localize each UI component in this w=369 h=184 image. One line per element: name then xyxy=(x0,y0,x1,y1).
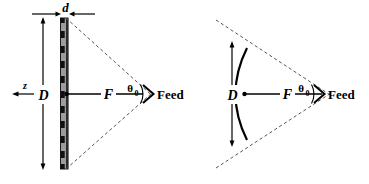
diameter-top-arrowhead xyxy=(230,41,235,48)
half-angle-theta0-left: θ 0 xyxy=(127,82,143,104)
diameter-top-arrowhead xyxy=(41,17,46,24)
half-angle-label-theta: θ xyxy=(127,82,133,94)
thickness-right-arrowhead xyxy=(69,12,75,17)
focal-vertex-dot xyxy=(242,92,246,96)
feed-label: Feed xyxy=(328,87,355,102)
figure-canvas: d xyxy=(0,0,369,184)
feed-label: Feed xyxy=(157,87,184,102)
ray-lower xyxy=(66,93,152,169)
axis-arrow-z: z xyxy=(12,80,34,96)
ray-upper xyxy=(216,20,331,96)
focal-length-dimension-F-right: F xyxy=(242,87,322,102)
focal-length-label-F: F xyxy=(282,87,293,102)
diameter-dimension-D-left: D xyxy=(35,17,52,170)
feed-chevron-icon xyxy=(143,85,154,103)
half-angle-subscript: 0 xyxy=(135,89,139,98)
focal-length-label-F: F xyxy=(103,87,114,102)
diameter-dimension-D-right: D xyxy=(224,41,241,147)
diameter-label-D: D xyxy=(37,88,48,103)
half-angle-subscript: 0 xyxy=(306,89,310,98)
feed-marker-left: Feed xyxy=(143,85,184,103)
plate-dash-segment xyxy=(61,46,65,53)
right-diagram-group: D F θ 0 Feed xyxy=(216,20,355,168)
plate-dash-segment xyxy=(61,164,65,169)
plate-dash-segment xyxy=(61,91,65,98)
diameter-bottom-arrowhead xyxy=(230,141,235,148)
diameter-label-D: D xyxy=(226,88,237,103)
plate-dash-segment xyxy=(61,61,65,68)
left-diagram-group: d xyxy=(12,0,184,170)
ray-upper xyxy=(66,18,152,96)
plate-dash-segment xyxy=(61,121,65,128)
plate-dash-segment xyxy=(61,151,65,158)
thickness-dimension-d: d xyxy=(32,0,95,16)
focal-vertex-dot xyxy=(64,92,68,96)
plate-dash-segment xyxy=(61,136,65,143)
diameter-bottom-arrowhead xyxy=(41,164,46,171)
half-angle-label-theta: θ xyxy=(298,82,304,94)
plate-dash-segment xyxy=(61,31,65,38)
ray-lower xyxy=(216,93,331,168)
thickness-left-arrowhead xyxy=(56,12,62,17)
axis-label-z: z xyxy=(22,80,27,91)
z-axis-arrowhead xyxy=(12,92,19,97)
half-angle-theta0-right: θ 0 xyxy=(298,82,314,104)
plate-dash-segment xyxy=(61,106,65,113)
reflector-antenna-figure: d xyxy=(0,0,369,184)
thickness-label-d: d xyxy=(62,0,69,15)
plate-dash-segment xyxy=(61,18,65,23)
plate-dash-segment xyxy=(61,76,65,83)
